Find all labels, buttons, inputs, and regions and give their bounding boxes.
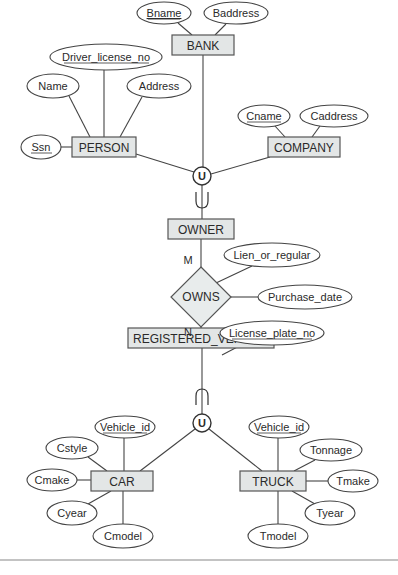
attribute-address[interactable]: Address bbox=[127, 74, 191, 98]
attribute-cmodel[interactable]: Cmodel bbox=[93, 524, 153, 548]
er-diagram: U U BANK PERSON COMPANY OWNER REGISTERED… bbox=[0, 0, 398, 575]
edge-person-union bbox=[136, 154, 194, 172]
attribute-label: Tonnage bbox=[310, 444, 352, 456]
edge-address-person bbox=[120, 97, 142, 137]
attribute-cyear[interactable]: Cyear bbox=[47, 501, 97, 525]
attribute-label: Caddress bbox=[310, 110, 358, 122]
attribute-label: Name bbox=[38, 80, 67, 92]
edge-cname-company bbox=[275, 126, 285, 137]
attribute-label: Lien_or_regular bbox=[233, 249, 310, 261]
attribute-label: Tmodel bbox=[260, 530, 297, 542]
attribute-label: Driver_license_no bbox=[62, 51, 150, 63]
edge-cyear-car bbox=[88, 491, 111, 504]
attribute-tyear[interactable]: Tyear bbox=[305, 501, 355, 525]
attribute-cname[interactable]: Cname bbox=[238, 105, 290, 127]
attribute-label: Cstyle bbox=[57, 442, 88, 454]
entity-label: COMPANY bbox=[274, 141, 334, 155]
attribute-driver-license-no[interactable]: Driver_license_no bbox=[50, 44, 162, 70]
attribute-label: Vehicle_id bbox=[254, 421, 304, 433]
edge-name-person bbox=[69, 96, 90, 137]
attribute-label: Purchase_date bbox=[268, 291, 342, 303]
attribute-purchase-date[interactable]: Purchase_date bbox=[258, 285, 352, 309]
union-label: U bbox=[198, 417, 206, 429]
union-node-owner: U bbox=[193, 167, 211, 185]
attribute-tonnage[interactable]: Tonnage bbox=[300, 439, 362, 461]
attribute-label: Cmake bbox=[35, 474, 70, 486]
edge-tonnage-truck bbox=[294, 460, 315, 471]
attribute-tmodel[interactable]: Tmodel bbox=[248, 524, 308, 548]
edge-caddress-company bbox=[312, 126, 320, 137]
union-node-vehicle: U bbox=[193, 414, 211, 432]
attribute-label: Bname bbox=[147, 7, 182, 19]
entity-owner[interactable]: OWNER bbox=[168, 219, 234, 239]
attribute-label: License_plate_no bbox=[229, 327, 315, 339]
relationship-label: OWNS bbox=[182, 290, 219, 304]
entity-company[interactable]: COMPANY bbox=[268, 137, 340, 157]
attribute-label: Baddress bbox=[213, 7, 260, 19]
attribute-name[interactable]: Name bbox=[27, 74, 79, 98]
entity-truck[interactable]: TRUCK bbox=[240, 471, 306, 491]
entity-label: PERSON bbox=[79, 141, 130, 155]
union-label: U bbox=[198, 170, 206, 182]
entity-bank[interactable]: BANK bbox=[172, 35, 234, 55]
entity-label: BANK bbox=[187, 39, 220, 53]
edge-bname-bank bbox=[178, 23, 192, 35]
attribute-caddress[interactable]: Caddress bbox=[300, 105, 368, 127]
attribute-label: Cname bbox=[246, 110, 281, 122]
attribute-lien-or-regular[interactable]: Lien_or_regular bbox=[224, 243, 320, 267]
edge-union-car bbox=[140, 429, 195, 471]
edge-cstyle-car bbox=[88, 457, 107, 471]
attribute-label: Address bbox=[139, 80, 180, 92]
attribute-label: Vehicle_id bbox=[100, 421, 150, 433]
edge-baddress-bank bbox=[215, 24, 226, 35]
entity-label: OWNER bbox=[178, 223, 224, 237]
entity-label: CAR bbox=[109, 475, 135, 489]
edge-union-truck bbox=[209, 429, 262, 471]
attribute-baddress[interactable]: Baddress bbox=[204, 2, 268, 24]
edge-company-union bbox=[211, 157, 270, 174]
entity-car[interactable]: CAR bbox=[91, 471, 153, 491]
entity-person[interactable]: PERSON bbox=[72, 137, 136, 157]
attribute-bname[interactable]: Bname bbox=[137, 2, 191, 24]
attribute-cmake[interactable]: Cmake bbox=[27, 469, 77, 491]
edge-lien-owns bbox=[216, 266, 252, 283]
attribute-tmake[interactable]: Tmake bbox=[328, 470, 378, 492]
attribute-label: Tmake bbox=[336, 475, 370, 487]
cardinality-n: N bbox=[184, 326, 192, 338]
attribute-license-plate-no[interactable]: License_plate_no bbox=[220, 321, 324, 345]
cardinality-m: M bbox=[183, 254, 192, 266]
edge-tyear-truck bbox=[292, 491, 315, 504]
attribute-label: Tyear bbox=[316, 507, 344, 519]
relationship-owns[interactable]: OWNS bbox=[171, 267, 231, 327]
attribute-label: Cmodel bbox=[104, 530, 142, 542]
attribute-cstyle[interactable]: Cstyle bbox=[46, 437, 98, 459]
attribute-ssn[interactable]: Ssn bbox=[21, 135, 61, 159]
attribute-label: Cyear bbox=[57, 507, 87, 519]
attribute-car-vehicle-id[interactable]: Vehicle_id bbox=[95, 416, 155, 438]
attribute-truck-vehicle-id[interactable]: Vehicle_id bbox=[249, 416, 309, 438]
entity-label: TRUCK bbox=[252, 475, 293, 489]
attribute-label: Ssn bbox=[32, 141, 51, 153]
